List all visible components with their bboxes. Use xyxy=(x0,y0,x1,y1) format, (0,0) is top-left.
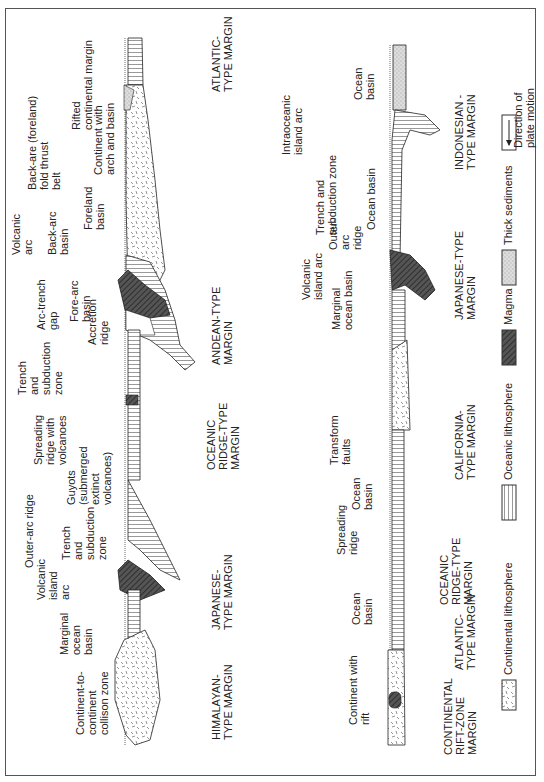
annotation-volcanic-arc: Volcanic arc xyxy=(10,214,34,255)
svg-text:OCEANIC: OCEANIC xyxy=(438,555,450,605)
annotation-volcanic-island-arc-left: Volcanic island arc xyxy=(35,559,71,600)
svg-text:Trench: Trench xyxy=(60,526,72,560)
annotation-trench-subduction-japanese: Trench and subduction zone xyxy=(60,507,108,560)
svg-text:Ocean basin: Ocean basin xyxy=(365,168,377,230)
svg-text:ridge with: ridge with xyxy=(44,418,56,465)
svg-text:TYPE MARGIN: TYPE MARGIN xyxy=(222,554,234,630)
continent-collision-zone xyxy=(115,630,160,745)
svg-text:Ocean: Ocean xyxy=(350,478,362,510)
annotation-ocean-basin-right-1: Ocean basin xyxy=(352,68,376,100)
svg-text:ocean: ocean xyxy=(70,625,82,655)
svg-text:Arc-trench: Arc-trench xyxy=(35,279,47,330)
svg-text:Rifted: Rifted xyxy=(70,101,82,130)
svg-text:Back-are (foreland): Back-are (foreland) xyxy=(26,96,38,190)
svg-text:zone: zone xyxy=(52,371,64,395)
svg-text:arc: arc xyxy=(339,234,351,250)
annotation-ocean-basin-right-2: Ocean basin xyxy=(365,168,377,230)
annotation-trench-subduction-andean: Trench and subduction zone xyxy=(16,342,64,395)
svg-text:Fore-arc: Fore-arc xyxy=(68,280,80,322)
svg-text:RIDGE-TYPE: RIDGE-TYPE xyxy=(217,403,229,470)
svg-text:Volcanic: Volcanic xyxy=(35,559,47,600)
margin-label-andean: ANDEAN-TYPE MARGIN xyxy=(210,287,234,365)
svg-text:CONTINENTAL: CONTINENTAL xyxy=(442,678,454,755)
svg-text:RIFT-ZONE: RIFT-ZONE xyxy=(454,697,466,755)
annotation-ocean-basin-right-4: Ocean basin xyxy=(350,593,374,625)
svg-text:(submerged: (submerged xyxy=(77,446,89,505)
svg-text:JAPANESE-: JAPANESE- xyxy=(210,569,222,630)
annotation-intraoceanic-island-arc: Intraoceanic island arc xyxy=(280,95,304,155)
svg-text:Marginal: Marginal xyxy=(58,613,70,655)
continental-block-right xyxy=(392,340,410,430)
svg-text:Volcanic: Volcanic xyxy=(300,259,312,300)
svg-text:TYPE MARGIN: TYPE MARGIN xyxy=(465,94,477,170)
margin-label-california: CALIFORNIA- TYPE MARGIN xyxy=(453,404,477,480)
svg-text:Spreading: Spreading xyxy=(335,505,347,555)
annotation-transform-faults: Transform faults xyxy=(328,415,352,465)
svg-text:extinct: extinct xyxy=(89,473,101,505)
svg-text:MARGIN: MARGIN xyxy=(466,711,478,755)
svg-text:gap: gap xyxy=(47,312,59,330)
annotation-ocean-basin-right-3: Ocean basin xyxy=(350,478,374,510)
svg-text:Outer-arc ridge: Outer-arc ridge xyxy=(23,494,35,568)
svg-text:MARGIN: MARGIN xyxy=(222,321,234,365)
svg-text:ridge: ridge xyxy=(98,321,110,345)
marginal-basin-crust-right xyxy=(392,290,405,350)
annotation-accretion-ridge: Accretion ridge xyxy=(86,299,110,345)
oceanic-lithosphere-left-atlantic xyxy=(128,38,143,85)
svg-text:continent: continent xyxy=(86,690,98,735)
svg-text:CALIFORNIA-: CALIFORNIA- xyxy=(453,410,465,480)
subducting-plate-indonesian xyxy=(392,110,440,260)
svg-text:Trench: Trench xyxy=(16,361,28,395)
svg-text:island arc: island arc xyxy=(312,252,324,300)
svg-text:volcanoes): volcanoes) xyxy=(101,452,113,505)
annotation-foreland-basin: Foreland basin xyxy=(82,187,106,230)
svg-text:basin: basin xyxy=(362,599,374,625)
svg-text:RIDGE-TYPE: RIDGE-TYPE xyxy=(450,538,462,605)
svg-text:TYPE MARGIN: TYPE MARGIN xyxy=(465,594,477,670)
annotation-back-arc-fold-thrust-belt: Back-are (foreland) fold thrust belt xyxy=(26,96,62,190)
margin-label-japanese-right: JAPANESE-TYPE MARGIN xyxy=(453,231,477,320)
annotation-volcanic-island-arc-right: Volcanic island arc xyxy=(300,252,324,300)
margin-label-oceanic-ridge-left: OCEANIC RIDGE-TYPE MARGIN xyxy=(205,403,241,470)
svg-text:subduction: subduction xyxy=(40,342,52,395)
svg-text:fold thrust: fold thrust xyxy=(38,142,50,190)
svg-text:Accretion: Accretion xyxy=(86,299,98,345)
continental-lithosphere-swatch xyxy=(502,680,516,710)
annotation-continent-with-rift: Continent with rift xyxy=(347,655,371,725)
oceanic-lithosphere-swatch xyxy=(502,485,516,520)
svg-text:TYPE MARGIN: TYPE MARGIN xyxy=(222,664,234,740)
svg-text:ATLANTIC-: ATLANTIC- xyxy=(210,36,222,92)
svg-text:Continental lithosphere: Continental lithosphere xyxy=(502,562,514,675)
svg-text:Continent with: Continent with xyxy=(92,105,104,175)
svg-text:plate motion: plate motion xyxy=(524,88,536,148)
svg-text:and: and xyxy=(28,377,40,395)
svg-text:collison zone: collison zone xyxy=(98,671,110,735)
margin-label-himalayan: HIMALAYAN- TYPE MARGIN xyxy=(210,664,234,740)
svg-text:island: island xyxy=(47,571,59,600)
svg-text:Volcanic: Volcanic xyxy=(10,214,22,255)
svg-text:Spreading: Spreading xyxy=(32,415,44,465)
svg-text:Magma: Magma xyxy=(502,287,514,325)
svg-text:ANDEAN-TYPE: ANDEAN-TYPE xyxy=(210,287,222,365)
thick-sediments-swatch xyxy=(502,250,516,285)
legend: Direction of plate motion Thick sediment… xyxy=(502,88,536,710)
svg-text:Foreland: Foreland xyxy=(82,187,94,230)
svg-text:JAPANESE-TYPE: JAPANESE-TYPE xyxy=(453,231,465,320)
svg-text:arc: arc xyxy=(59,584,71,600)
svg-text:basin: basin xyxy=(362,484,374,510)
annotation-outer-arc-ridge-right: Outer- arc ridge xyxy=(327,218,363,250)
svg-text:Trench and: Trench and xyxy=(314,180,326,235)
annotation-outer-arc-ridge: Outer-arc ridge xyxy=(23,494,35,568)
annotation-spreading-ridge-volcanoes: Spreading ridge with volcanoes xyxy=(32,415,68,465)
sediment-ocean-basin-right xyxy=(393,45,406,110)
svg-text:arch and basin: arch and basin xyxy=(104,103,116,175)
margin-label-continental-rift: CONTINENTAL RIFT-ZONE MARGIN xyxy=(442,678,478,755)
svg-text:OCEANIC: OCEANIC xyxy=(205,420,217,470)
svg-text:Ocean: Ocean xyxy=(350,593,362,625)
svg-text:ridge: ridge xyxy=(347,531,359,555)
svg-text:ATLANTIC-: ATLANTIC- xyxy=(453,614,465,670)
margin-label-atlantic-left: ATLANTIC- TYPE MARGIN xyxy=(210,16,234,92)
svg-text:subduction: subduction xyxy=(84,507,96,560)
svg-text:island arc: island arc xyxy=(292,107,304,155)
svg-text:Outer-: Outer- xyxy=(327,218,339,250)
